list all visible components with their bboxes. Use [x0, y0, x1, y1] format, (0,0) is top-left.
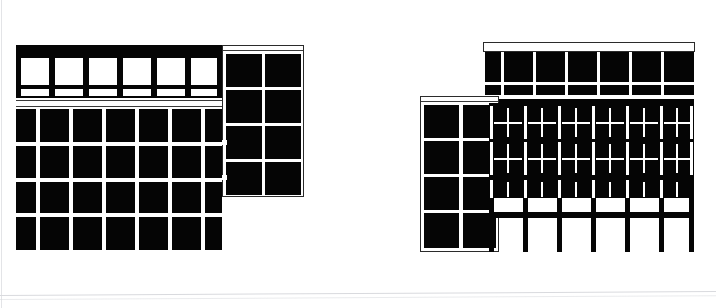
left-building-elevation [14, 42, 300, 254]
drawing-sheet [0, 0, 716, 308]
left-tower-cornice-line [421, 101, 498, 102]
spandrel-strip-line [16, 100, 222, 101]
spandrel-strip-line-2 [16, 106, 222, 107]
main-window-grid [16, 109, 222, 250]
right-building-elevation [418, 40, 698, 256]
scan-edge-bottom-secondary [0, 295, 716, 300]
tower-junction-notch-1 [222, 140, 227, 145]
left-cornice-band [16, 45, 222, 53]
attic-band-outline [483, 42, 695, 52]
tower-junction-notch-2 [222, 175, 227, 180]
scan-edge-left [1, 0, 2, 308]
right-tower-cornice-line [223, 50, 303, 51]
attic-ribbon-band [485, 52, 694, 95]
